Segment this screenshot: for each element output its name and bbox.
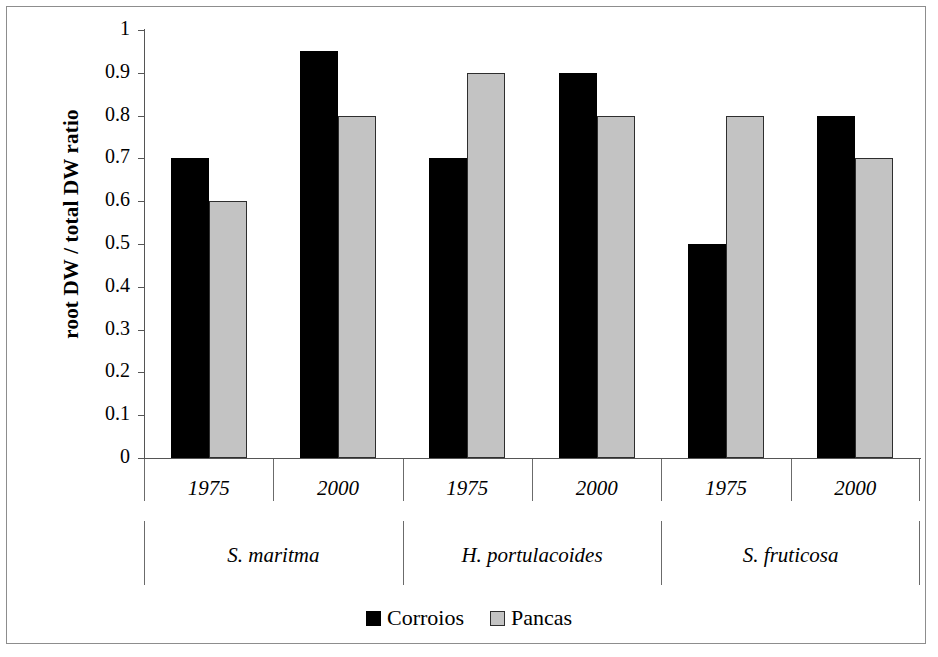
legend-entry-pancas: Pancas	[490, 605, 572, 631]
x-axis-year-row: 197520001975200019752000	[144, 459, 921, 521]
x-axis-year-cell: 2000	[791, 459, 920, 521]
x-axis-year-cell: 2000	[273, 459, 402, 521]
chart-figure: root DW / total DW ratio 10.90.80.70.60.…	[0, 0, 938, 657]
y-axis-tick-label: 0.3	[22, 317, 130, 340]
x-axis-year-cell: 1975	[661, 459, 790, 521]
bar-pancas-2000-3	[597, 116, 635, 458]
x-axis-year-separator	[661, 459, 662, 501]
bar-pancas-2000-1	[338, 116, 376, 458]
bar-corroios-2000-1	[300, 51, 338, 458]
legend-swatch-icon	[366, 611, 381, 626]
y-axis-tick-label: 0.1	[22, 402, 130, 425]
x-axis-year-label: 1975	[661, 476, 790, 501]
x-axis-species-separator	[919, 521, 920, 585]
x-axis-species-label: S. maritma	[144, 543, 403, 568]
plot-area	[144, 30, 920, 458]
x-axis-species-label: H. portulacoides	[403, 543, 662, 568]
legend-entry-corroios: Corroios	[366, 605, 464, 631]
y-axis-tick-label: 0.7	[22, 145, 130, 168]
x-axis-year-label: 2000	[273, 476, 402, 501]
bar-corroios-1975-4	[688, 244, 726, 458]
bar-pancas-1975-2	[467, 73, 505, 458]
y-axis-tick-label: 0.9	[22, 60, 130, 83]
y-axis-tick-label: 1	[22, 17, 130, 40]
x-axis-year-separator	[791, 459, 792, 501]
x-axis-year-separator	[144, 459, 145, 501]
x-axis-species-row: S. maritmaH. portulacoidesS. fruticosa	[144, 521, 921, 585]
legend-label: Corroios	[387, 605, 464, 631]
x-axis-species-separator	[661, 521, 662, 585]
x-axis-year-separator	[403, 459, 404, 501]
x-axis-species-label: S. fruticosa	[661, 543, 920, 568]
x-axis-species-cell: H. portulacoides	[403, 521, 662, 585]
y-axis-tick-label: 0.5	[22, 231, 130, 254]
y-axis-tick-label: 0.8	[22, 103, 130, 126]
x-axis-year-cell: 1975	[403, 459, 532, 521]
y-axis-tick-label: 0	[22, 445, 130, 468]
x-axis-year-cell: 1975	[144, 459, 273, 521]
x-axis-species-cell: S. fruticosa	[661, 521, 920, 585]
x-axis-year-separator	[273, 459, 274, 501]
legend-label: Pancas	[511, 605, 572, 631]
bar-corroios-2000-5	[817, 116, 855, 458]
x-axis-species-separator	[144, 521, 145, 585]
x-axis-year-separator	[532, 459, 533, 501]
chart-legend: CorroiosPancas	[0, 601, 938, 635]
bar-pancas-1975-4	[726, 116, 764, 458]
x-axis-species-cell: S. maritma	[144, 521, 403, 585]
x-axis-year-label: 1975	[144, 476, 273, 501]
bar-pancas-1975-0	[209, 201, 247, 458]
legend-swatch-icon	[490, 611, 505, 626]
x-axis-species-separator	[403, 521, 404, 585]
x-axis-year-label: 1975	[403, 476, 532, 501]
x-axis-year-label: 2000	[532, 476, 661, 501]
bar-corroios-1975-0	[171, 158, 209, 458]
x-axis-year-separator	[919, 459, 920, 501]
bar-corroios-1975-2	[429, 158, 467, 458]
x-axis-year-label: 2000	[791, 476, 920, 501]
y-axis-tick-label: 0.2	[22, 359, 130, 382]
bar-pancas-2000-5	[855, 158, 893, 458]
x-axis-year-cell: 2000	[532, 459, 661, 521]
y-axis-tick-label: 0.6	[22, 188, 130, 211]
bar-corroios-2000-3	[559, 73, 597, 458]
y-axis-tick-label: 0.4	[22, 274, 130, 297]
